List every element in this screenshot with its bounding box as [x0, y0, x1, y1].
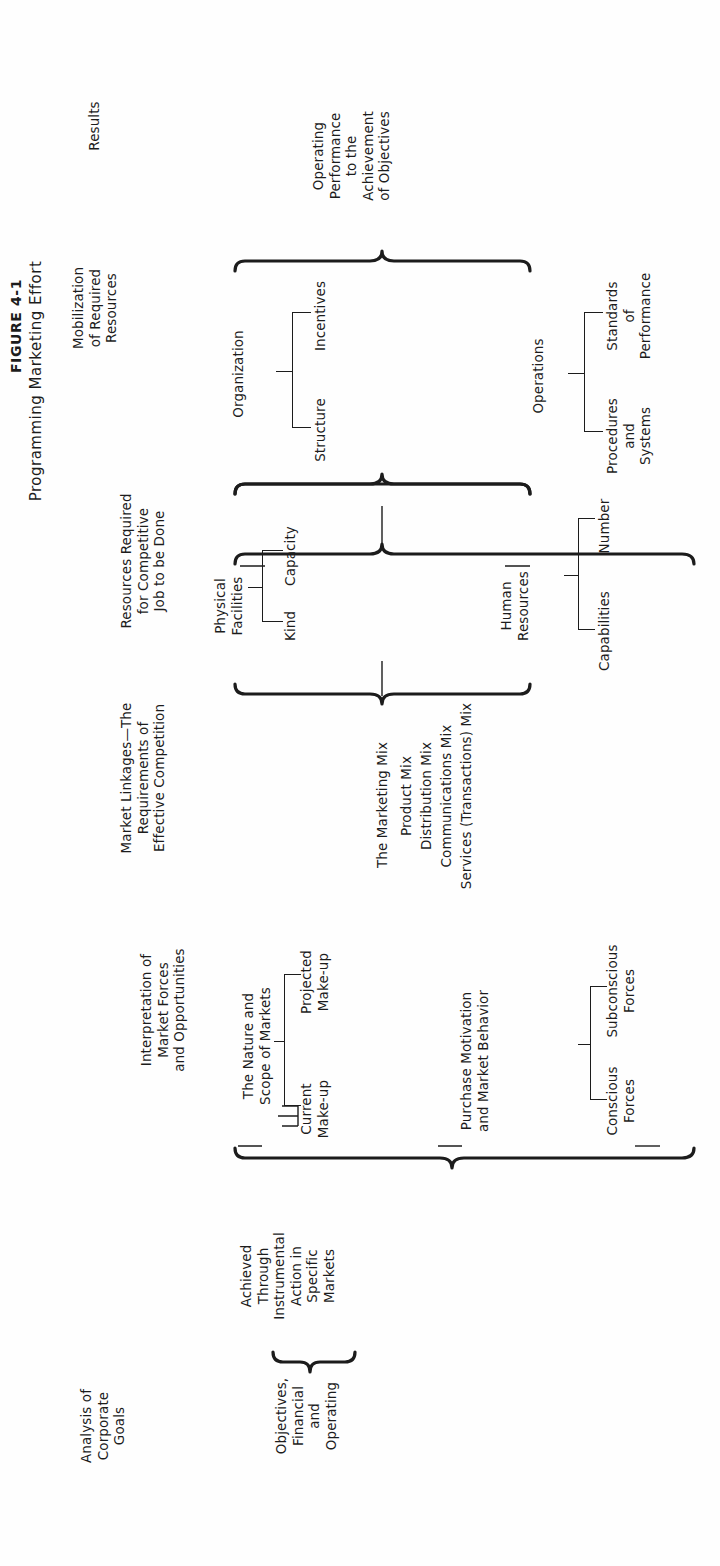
conscious-forces-node: Conscious Forces: [604, 1066, 637, 1135]
tree-connector-nature-stem: [274, 1041, 285, 1042]
physical-facilities-node: Physical Facilities: [212, 577, 245, 636]
tree-connector-organization: [292, 312, 311, 428]
subconscious-forces-node: Subconscious Forces: [604, 944, 637, 1037]
tree-connector-physical: [262, 550, 283, 622]
organization-node: Organization: [230, 330, 247, 418]
diagram-connectors: [0, 0, 720, 1566]
procedures-node: Procedures and Systems: [604, 398, 654, 474]
header-interpretation: Interpretation of Market Forces and Oppo…: [138, 948, 188, 1072]
marketing-mix-item: Services (Transactions) Mix: [458, 703, 475, 889]
marketing-mix-title: The Marketing Mix: [374, 742, 391, 868]
diagram-canvas: FIGURE 4-1 Programming Marketing Effort …: [0, 0, 720, 1566]
marketing-mix-item: Distribution Mix: [418, 742, 435, 850]
figure-label: FIGURE 4-1: [8, 279, 25, 373]
header-goals: Analysis of Corporate Goals: [78, 1389, 128, 1463]
marketing-mix-item: Communications Mix: [438, 725, 455, 868]
brace-mobilization-right: [235, 251, 530, 271]
header-linkages: Market Linkages—The Requirements of Effe…: [118, 703, 168, 854]
header-results: Results: [86, 101, 103, 150]
operating-performance-node: Operating Performance to the Achievement…: [310, 111, 393, 201]
structure-node: Structure: [312, 398, 329, 462]
capacity-node: Capacity: [282, 526, 299, 586]
tree-connector-human: [578, 518, 595, 630]
header-mobilization: Mobilization of Required Resources: [70, 267, 120, 349]
tree-connector-purchase: [590, 986, 607, 1100]
projected-makeup-node: Projected Make-up: [298, 950, 331, 1014]
incentives-node: Incentives: [312, 281, 329, 351]
objectives-node: Objectives, Financial and Operating: [273, 1378, 339, 1454]
tree-connector-physical-stem: [248, 587, 263, 588]
brace-markets: [235, 1148, 694, 1168]
number-node: Number: [596, 499, 613, 554]
brace-objectives: [273, 1352, 355, 1372]
tree-connector-purchase-stem: [578, 1044, 591, 1045]
figure-title: Programming Marketing Effort: [28, 261, 45, 502]
purchase-motivation-node: Purchase Motivation and Market Behavior: [458, 990, 491, 1132]
tree-connector-organization-stem: [276, 371, 293, 372]
capabilities-node: Capabilities: [596, 591, 613, 671]
marketing-mix-item: Product Mix: [398, 756, 415, 836]
achieved-node: Achieved Through Instrumental Action in …: [238, 1232, 337, 1320]
tree-connector-operations-stem: [568, 373, 585, 374]
current-makeup-node: Current Make-up: [298, 1080, 331, 1138]
brace-markets-right: [235, 544, 694, 564]
nature-scope-node: The Nature and Scope of Markets: [240, 987, 273, 1105]
kind-node: Kind: [282, 611, 299, 641]
header-resources-required: Resources Required for Competitive Job t…: [118, 493, 168, 628]
standards-node: Standards of Performance: [604, 273, 654, 360]
tree-connector-operations: [584, 312, 603, 432]
tree-connector-human-stem: [564, 575, 579, 576]
human-resources-node: Human Resources: [498, 571, 531, 641]
tree-connector-nature: [284, 974, 301, 1106]
operations-node: Operations: [530, 338, 547, 413]
